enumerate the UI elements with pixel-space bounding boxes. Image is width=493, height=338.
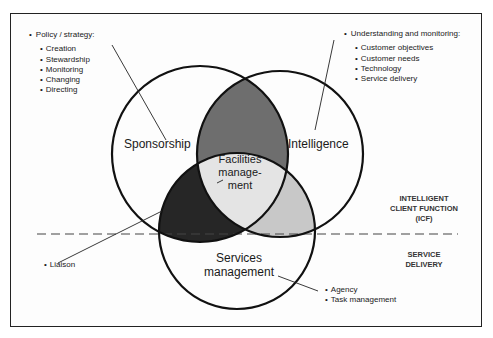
center-label-line2: manage- [212, 166, 268, 179]
policy-heading: Policy / strategy: [29, 30, 95, 40]
policy-item: Changing [40, 75, 95, 85]
services-label-line2: management [204, 265, 274, 279]
understanding-item: Technology [355, 64, 460, 74]
leader-understanding [315, 40, 334, 130]
services-label-line1: Services [204, 251, 274, 265]
sd-line2: DELIVERY [372, 260, 476, 270]
agency-list: Agency Task management [325, 285, 396, 306]
icf-line3: (ICF) [372, 214, 476, 224]
center-label-line1: Facilities [212, 153, 268, 166]
understanding-list: Understanding and monitoring: Customer o… [344, 29, 460, 84]
sd-line1: SERVICE [372, 250, 476, 260]
policy-item: Directing [40, 85, 95, 95]
center-label-line3: ment [212, 179, 268, 192]
icf-line1: INTELLIGENT [372, 194, 476, 204]
understanding-item: Service delivery [355, 74, 460, 84]
liaison-item: Liaison [44, 260, 75, 270]
understanding-heading: Understanding and monitoring: [344, 29, 460, 39]
understanding-item: Customer needs [355, 54, 460, 64]
facilities-management-label: Facilities manage- ment [212, 153, 268, 192]
policy-item: Creation [40, 44, 95, 54]
leader-policy [112, 45, 166, 140]
service-delivery-zone-label: SERVICE DELIVERY [372, 250, 476, 270]
policy-list: Policy / strategy: Creation Stewardship … [29, 30, 95, 96]
leader-liaison [58, 211, 162, 263]
services-label: Services management [204, 251, 274, 279]
icf-line2: CLIENT FUNCTION [372, 204, 476, 214]
policy-item: Stewardship [40, 55, 95, 65]
agency-item: Task management [325, 295, 396, 305]
liaison-list: Liaison [44, 260, 75, 270]
sponsorship-label: Sponsorship [124, 137, 191, 151]
agency-item: Agency [325, 285, 396, 295]
policy-item: Monitoring [40, 65, 95, 75]
icf-zone-label: INTELLIGENT CLIENT FUNCTION (ICF) [372, 194, 476, 224]
intelligence-label: Intelligence [288, 137, 349, 151]
understanding-item: Customer objectives [355, 43, 460, 53]
